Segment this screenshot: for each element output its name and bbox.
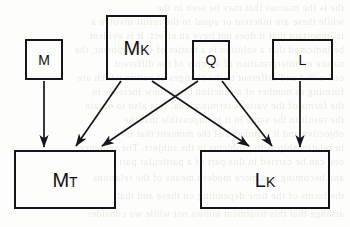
node-mt-label: MT xyxy=(52,170,77,190)
edge-mk-to-lk xyxy=(152,81,249,146)
edge-mk-to-mt xyxy=(76,81,121,146)
node-mk[interactable]: MK xyxy=(106,15,167,80)
node-lk[interactable]: LK xyxy=(200,150,330,209)
node-lk-label: LK xyxy=(255,170,275,190)
node-q[interactable]: Q xyxy=(192,40,230,80)
edge-q-to-mt xyxy=(102,81,198,146)
node-mk-label: MK xyxy=(123,38,149,58)
node-m[interactable]: M xyxy=(25,39,63,80)
node-m-label: M xyxy=(38,52,50,68)
node-l-label: L xyxy=(299,52,307,68)
node-l[interactable]: L xyxy=(272,39,333,80)
node-mt[interactable]: MT xyxy=(14,150,116,209)
diagram-canvas: the is the manner that may be seen in th… xyxy=(0,0,350,227)
node-q-label: Q xyxy=(206,52,217,68)
edge-q-to-lk xyxy=(222,81,272,146)
